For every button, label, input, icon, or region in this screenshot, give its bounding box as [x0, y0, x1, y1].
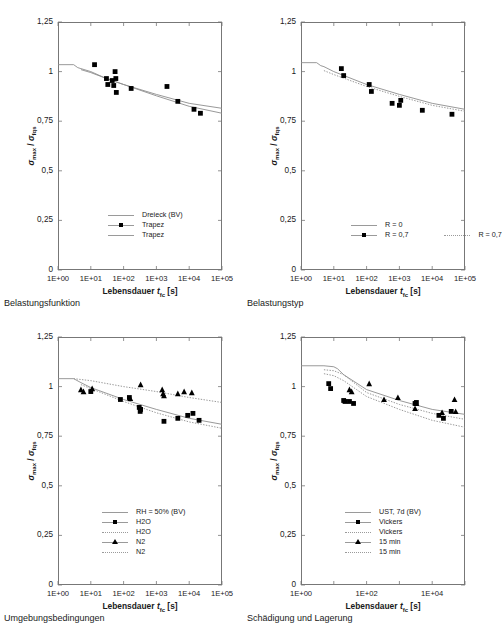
legend-label: N2 [130, 547, 145, 557]
y-axis-tick-label: 1 [48, 68, 53, 76]
y-axis-title: σmax / σfqs [26, 126, 38, 165]
data-point-triangle [453, 408, 459, 414]
legend-key-icon [100, 507, 130, 517]
y-axis-tick-label: 0,25 [37, 531, 53, 539]
y-axis-tick-label: 0 [48, 581, 53, 589]
x-axis-tick-label: 1E+02 [356, 590, 378, 598]
y-axis-tick-label: 1,25 [37, 18, 53, 26]
data-point-triangle [138, 382, 144, 388]
plot-area: 00,250,50,7511,25 1E+001E+011E+021E+031E… [58, 22, 222, 270]
data-point-square [138, 407, 143, 412]
plot-area: 00,250,50,7511,25 1E+001E+021E+04 σmax /… [301, 337, 465, 585]
data-point-triangle [181, 389, 187, 395]
data-point-square [397, 103, 402, 108]
y-axis-tick-label: 0,5 [42, 482, 53, 490]
legend-key-icon [343, 507, 373, 517]
legend-label: Trapez [136, 230, 164, 240]
legend-label: 15 min [373, 537, 401, 547]
y-axis-tick-label: 0 [291, 266, 296, 274]
data-point-square [185, 413, 190, 418]
x-axis-tick-label: 1E+00 [47, 275, 69, 283]
y-axis-tick-label: 1,25 [280, 18, 296, 26]
y-axis-title: σmax / σfqs [269, 441, 281, 480]
legend-label: UST, 7d (BV) [373, 507, 421, 517]
legend-key-icon [106, 210, 136, 220]
data-point-square [175, 99, 180, 104]
y-axis-tick-label: 1,25 [37, 333, 53, 341]
data-point-triangle [452, 397, 458, 403]
legend-key-icon [100, 547, 130, 557]
chart-panel-umgebungsbedingungen: 00,250,50,7511,25 1E+001E+011E+021E+031E… [0, 315, 243, 630]
legend-item: 15 min [343, 537, 421, 547]
legend-label: Vickers [373, 517, 402, 527]
x-axis-title: Lebensdauer tfc [s] [102, 601, 177, 613]
data-point-square [129, 86, 134, 91]
chart-legend: Dreieck (BV)TrapezTrapez [106, 210, 183, 240]
x-axis-tick-label: 1E+03 [145, 590, 167, 598]
y-axis-tick-label: 1,25 [280, 333, 296, 341]
chart-legend: RH = 50% (BV)H2OH2ON2N2 [100, 507, 185, 557]
x-axis-tick-label: 1E+00 [290, 590, 312, 598]
legend-column-right: R = 0,7 [442, 220, 501, 240]
legend-key-icon [100, 527, 130, 537]
plot-area: 00,250,50,7511,25 1E+001E+011E+021E+031E… [301, 22, 465, 270]
data-point-triangle [159, 387, 165, 393]
data-point-square [420, 108, 425, 113]
data-point-square [92, 62, 97, 67]
legend-item: Vickers [343, 517, 421, 527]
legend-item: Dreieck (BV) [106, 210, 183, 220]
legend-key-icon [349, 230, 379, 240]
chart-legend: UST, 7d (BV)VickersVickers15 min15 min [343, 507, 421, 557]
data-point-square [162, 419, 167, 424]
y-axis-tick-label: 0,75 [37, 432, 53, 440]
x-axis-tick-label: 1E+05 [454, 275, 476, 283]
y-axis-tick-label: 1 [291, 383, 296, 391]
data-point-square [328, 386, 333, 391]
panel-caption: Umgebungsbedingungen [4, 613, 105, 623]
panel-caption: Belastungstyp [247, 298, 304, 308]
y-axis-title: σmax / σfqs [269, 126, 281, 165]
legend-label: 15 min [373, 547, 401, 557]
legend-item: R = 0,7 [442, 230, 501, 240]
y-axis-tick-label: 0,25 [37, 216, 53, 224]
legend-label: N2 [130, 537, 145, 547]
legend-label: Trapez [136, 220, 164, 230]
y-axis-tick-label: 0,75 [37, 117, 53, 125]
y-axis-tick-label: 1 [48, 383, 53, 391]
legend-item: Trapez [106, 220, 183, 230]
data-point-square [398, 98, 403, 103]
data-point-square [191, 411, 196, 416]
x-axis-tick-label: 1E+01 [80, 590, 102, 598]
y-axis-tick-label: 0,75 [280, 117, 296, 125]
series-curve [74, 379, 222, 403]
legend-item: UST, 7d (BV) [343, 507, 421, 517]
data-point-triangle [395, 395, 401, 401]
data-point-square [198, 111, 203, 116]
legend-item: R = 0,7 [349, 230, 408, 240]
legend-label: H2O [130, 517, 151, 527]
legend-key-icon [106, 230, 136, 240]
data-point-triangle [366, 381, 372, 387]
chart-panel-schaedigung-und-lagerung: 00,250,50,7511,25 1E+001E+021E+04 σmax /… [243, 315, 486, 630]
data-point-square [105, 82, 110, 87]
x-axis-tick-label: 1E+03 [145, 275, 167, 283]
x-axis-tick-label: 1E+00 [290, 275, 312, 283]
data-point-square [192, 107, 197, 112]
data-point-square [339, 66, 344, 71]
legend-item: Trapez [106, 230, 183, 240]
data-point-square [341, 73, 346, 78]
legend-label: Dreieck (BV) [136, 210, 183, 220]
data-point-square [165, 84, 170, 89]
data-point-square [450, 112, 455, 117]
x-axis-tick-label: 1E+01 [323, 275, 345, 283]
data-point-square [369, 89, 374, 94]
y-axis-tick-label: 0,5 [42, 167, 53, 175]
data-point-square [104, 76, 109, 81]
legend-item: N2 [100, 547, 185, 557]
y-axis-tick-label: 1 [291, 68, 296, 76]
data-point-square [390, 101, 395, 106]
plot-area: 00,250,50,7511,25 1E+001E+011E+021E+031E… [58, 337, 222, 585]
data-point-square [347, 399, 352, 404]
x-axis-title: Lebensdauer tfc [s] [345, 286, 420, 298]
